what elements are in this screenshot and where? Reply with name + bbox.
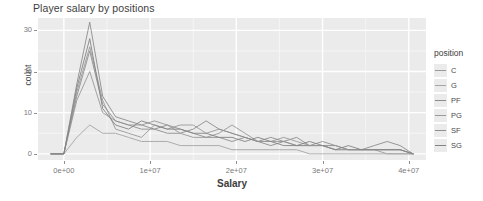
legend-key-icon [434,124,447,137]
y-tick-label: 20 [10,67,32,76]
x-tick-label: 0e+00 [34,166,94,175]
chart-root: Player salary by positions count 0102030… [0,0,483,201]
y-tick-mark [34,113,37,114]
legend-item-SF[interactable]: SF [434,123,482,138]
legend-item-label: G [451,81,457,90]
series-line-PF [51,22,413,154]
legend-item-label: C [451,66,456,75]
series-line-SF [51,51,413,154]
legend-items: CGPFPGSFSG [434,63,482,153]
x-tick-label: 2e+07 [206,166,266,175]
x-tick-label: 1e+07 [120,166,180,175]
legend-title: position [434,48,482,58]
x-tick-mark [409,161,410,164]
y-tick-mark [34,154,37,155]
plot-canvas [38,18,426,160]
x-tick-mark [150,161,151,164]
y-tick-label: 0 [10,149,32,158]
legend-item-label: PG [451,111,462,120]
legend-key-icon [434,139,447,152]
y-tick-label: 30 [10,25,32,34]
x-tick-mark [236,161,237,164]
legend-item-label: SF [451,126,461,135]
legend-key-icon [434,64,447,77]
legend-key-icon [434,109,447,122]
legend-item-SG[interactable]: SG [434,138,482,153]
legend-item-label: SG [451,141,462,150]
legend-key-icon [434,94,447,107]
x-axis-title: Salary [38,178,426,189]
legend-key-icon [434,79,447,92]
plot-panel [38,18,426,160]
series-line-SG [51,39,413,154]
x-tick-label: 4e+07 [379,166,439,175]
legend-item-C[interactable]: C [434,63,482,78]
x-tick-mark [64,161,65,164]
page-title: Player salary by positions [33,2,155,14]
x-tick-mark [323,161,324,164]
legend-item-PG[interactable]: PG [434,108,482,123]
y-tick-mark [34,72,37,73]
y-axis-tick-labels: 0102030 [8,0,32,201]
y-tick-mark [34,30,37,31]
legend: position CGPFPGSFSG [434,48,482,153]
legend-item-PF[interactable]: PF [434,93,482,108]
legend-item-label: PF [451,96,461,105]
y-tick-label: 10 [10,108,32,117]
legend-item-G[interactable]: G [434,78,482,93]
x-tick-label: 3e+07 [293,166,353,175]
